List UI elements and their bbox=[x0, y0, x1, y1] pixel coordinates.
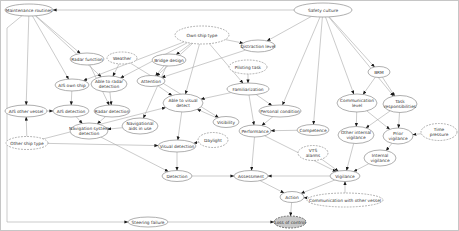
node-ais-detection: AIS detection bbox=[53, 105, 89, 117]
node-radar-function: Radar function bbox=[70, 53, 104, 65]
node-label: Loss of control bbox=[274, 220, 305, 225]
node-weather: Weather bbox=[107, 52, 137, 64]
node-label: Visual detection bbox=[160, 144, 195, 149]
node-label: Detection bbox=[167, 174, 188, 179]
node-label: Attention bbox=[141, 79, 161, 84]
node-able-visual-detect: Able to visualdetect bbox=[163, 94, 203, 112]
node-label: Radar detection bbox=[95, 109, 130, 114]
node-label: BRM bbox=[374, 70, 384, 75]
bbn-diagram: Maintenance routinesSafety cultureRadar … bbox=[0, 0, 459, 231]
node-label: Weather bbox=[113, 56, 131, 61]
node-other-internal-vigilance: Other internalvigilance bbox=[338, 127, 374, 144]
node-label: Daylight bbox=[204, 138, 222, 143]
node-safety-culture: Safety culture bbox=[294, 3, 352, 17]
node-steering-failure: Steering failure bbox=[128, 217, 168, 227]
node-label: Other ship type bbox=[10, 141, 44, 146]
node-label: Communication with other vessel bbox=[309, 198, 381, 203]
node-action: Action bbox=[280, 192, 304, 203]
node-label: Visibility bbox=[217, 120, 235, 125]
node-piloting-task: Piloting task bbox=[229, 60, 267, 74]
node-label: Safety culture bbox=[308, 8, 338, 13]
node-label: Navigationalaids in use bbox=[126, 121, 153, 131]
node-bridge-design: Bridge design bbox=[152, 54, 186, 66]
node-time-pressure: Timepressure bbox=[421, 124, 457, 141]
node-nav-system-detection: Navigation systemdetection bbox=[69, 123, 109, 139]
node-task-responsibilities: Taskresponsibilities bbox=[383, 96, 417, 113]
node-label: Maintenance routines bbox=[6, 8, 53, 13]
node-label: Performance bbox=[241, 129, 269, 134]
node-internal-vigilance: Internalvigilance bbox=[364, 150, 396, 166]
node-label: Personal condition bbox=[260, 109, 300, 114]
node-vigilance: Vigilance bbox=[330, 171, 360, 182]
node-label: Piloting task bbox=[235, 65, 262, 70]
node-distraction-level: Distraction level bbox=[240, 40, 275, 52]
node-label: Own ship type bbox=[187, 33, 218, 38]
node-communication-level: Communicationlevel bbox=[337, 94, 377, 112]
node-other-ship-type: Other ship type bbox=[6, 137, 48, 150]
node-competence: Competence bbox=[297, 125, 329, 136]
node-label: Vigilance bbox=[335, 174, 355, 179]
node-detection: Detection bbox=[162, 171, 192, 182]
node-daylight: Daylight bbox=[198, 133, 228, 148]
node-assessment: Assessment bbox=[234, 171, 268, 182]
node-attention: Attention bbox=[137, 76, 165, 87]
node-ais-own-ship: AIS own ship bbox=[55, 79, 89, 91]
node-brm: BRM bbox=[368, 67, 390, 78]
node-label: Familiarization bbox=[232, 87, 263, 92]
node-radar-detection: Radar detection bbox=[94, 105, 130, 117]
node-able-radar-detection: Able to radardetection bbox=[91, 76, 127, 92]
node-loss-of-control: Loss of control bbox=[274, 216, 306, 228]
node-visibility: Visibility bbox=[213, 117, 239, 128]
node-label: Radar function bbox=[71, 57, 103, 62]
node-personal-condition: Personal condition bbox=[259, 105, 301, 117]
node-label: AIS other vessel bbox=[9, 109, 44, 114]
node-navigational-aids: Navigationalaids in use bbox=[122, 118, 158, 134]
node-performance: Performance bbox=[239, 125, 271, 137]
node-label: Bridge design bbox=[154, 58, 184, 63]
node-vts-alarms: VTSalarms bbox=[298, 146, 328, 161]
node-label: Able to radardetection bbox=[95, 79, 123, 89]
node-maintenance-routines: Maintenance routines bbox=[5, 4, 53, 16]
node-label: AIS detection bbox=[57, 109, 86, 114]
node-label: Action bbox=[285, 195, 299, 200]
node-prior-vigilance: Priorvigilance bbox=[383, 128, 413, 144]
node-visual-detection: Visual detection bbox=[158, 140, 196, 152]
node-label: AIS own ship bbox=[58, 83, 86, 88]
node-label: Steering failure bbox=[131, 220, 164, 225]
node-own-ship-type: Own ship type bbox=[175, 26, 229, 44]
node-comm-other-vessel: Communication with other vessel bbox=[307, 193, 383, 207]
node-label: Distraction level bbox=[240, 44, 275, 49]
node-ais-other-vessel: AIS other vessel bbox=[5, 105, 47, 117]
node-familiarization: Familiarization bbox=[227, 83, 269, 95]
node-label: Internalvigilance bbox=[370, 153, 390, 163]
node-label: Assessment bbox=[238, 174, 264, 179]
bbn-network-svg: Maintenance routinesSafety cultureRadar … bbox=[0, 0, 459, 231]
node-label: Competence bbox=[299, 128, 327, 133]
